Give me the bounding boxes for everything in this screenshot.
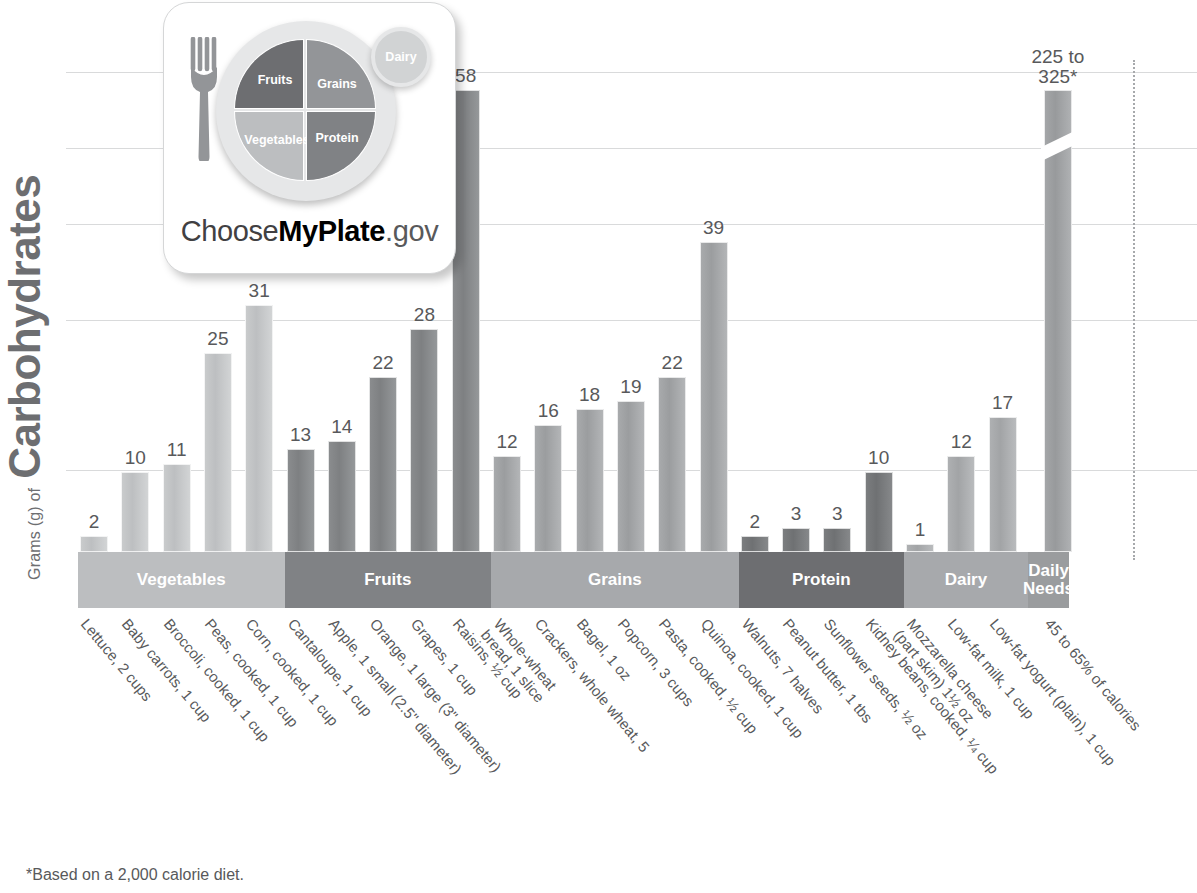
bar-value-label: 13 (290, 424, 311, 446)
bar-value-label: 12 (496, 431, 517, 453)
bar[interactable]: 17 (989, 417, 1017, 552)
logo-word-myplate: MyPlate (278, 215, 385, 247)
bar[interactable]: 18 (576, 409, 604, 552)
bar-value-label: 12 (951, 431, 972, 453)
chooseMyPlate-logo: Fruits Grains Vegetables Protein Dairy C… (163, 2, 456, 274)
bar-value-label: 58 (455, 65, 476, 87)
logo-word-choose: Choose (181, 215, 279, 247)
plate-label-dairy: Dairy (385, 50, 416, 64)
bar[interactable]: 10 (865, 472, 893, 552)
bar-value-label: 39 (703, 217, 724, 239)
x-axis-label: 45 to 65% of calories (1041, 616, 1144, 734)
bar-value-label: 2 (750, 511, 761, 533)
footnote: *Based on a 2,000 calorie diet. (26, 866, 244, 884)
group-band: Fruits (285, 552, 492, 608)
bar[interactable]: 39 (700, 242, 728, 552)
gridline (66, 320, 1197, 321)
bar[interactable]: 16 (534, 425, 562, 552)
group-band: Protein (739, 552, 904, 608)
bar[interactable]: 14 (328, 441, 356, 552)
group-band-label: Vegetables (137, 571, 226, 589)
bar-value-label: 10 (868, 447, 889, 469)
bar-value-line2: 325* (1031, 67, 1084, 86)
bar-value-label: 31 (249, 280, 270, 302)
group-band: Dairy (904, 552, 1028, 608)
bar[interactable]: 2 (741, 536, 769, 552)
bar-value-line1: 225 to (1031, 47, 1084, 66)
bar-value-label: 14 (331, 416, 352, 438)
group-band: Grains (491, 552, 739, 608)
bar-value-label: 1 (915, 519, 926, 541)
bar-value-label: 225 to325* (1031, 47, 1084, 86)
group-band-label: DailyNeeds (1023, 562, 1074, 598)
bar[interactable]: 25 (204, 353, 232, 552)
bar[interactable]: 19 (617, 401, 645, 552)
bar[interactable]: 22 (369, 377, 397, 552)
plate-label-grains: Grains (317, 77, 357, 91)
group-band-row: VegetablesFruitsGrainsProteinDairyDailyN… (78, 552, 1069, 608)
bar-value-label: 11 (167, 439, 187, 461)
plate-label-protein: Protein (315, 131, 358, 145)
logo-wordmark: ChooseMyPlate.gov (164, 215, 455, 248)
group-band-label: Protein (792, 571, 851, 589)
bar-value-label: 3 (791, 503, 802, 525)
bar-value-label: 19 (620, 376, 641, 398)
plate-label-vegetables: Vegetables (244, 133, 309, 147)
bar[interactable]: 12 (493, 456, 521, 552)
group-band-label: Dairy (945, 571, 988, 589)
bar-value-label: 22 (662, 352, 683, 374)
y-axis-title: Grams (g) of Carbohydrates (0, 0, 66, 600)
plate-label-fruits: Fruits (258, 73, 293, 87)
plate-section-dairy: Dairy (371, 27, 431, 87)
y-axis-unit-label: Grams (g) of (26, 488, 44, 580)
bar-value-label: 2 (89, 511, 100, 533)
group-band: DailyNeeds (1028, 552, 1069, 608)
bar[interactable]: 31 (245, 305, 273, 552)
axis-break-slash (1041, 131, 1075, 162)
bar-value-label: 25 (207, 328, 228, 350)
group-band: Vegetables (78, 552, 285, 608)
y-axis-main-label: Carbohydrates (0, 175, 50, 479)
bar-value-label: 17 (992, 392, 1013, 414)
daily-needs-separator (1133, 60, 1135, 560)
bar[interactable]: 3 (782, 528, 810, 552)
x-axis-labels: Lettuce, 2 cupsBaby carrots, 1 cupBrocco… (66, 608, 1197, 858)
bar-value-label: 28 (414, 304, 435, 326)
plate-graphic: Fruits Grains Vegetables Protein (216, 21, 396, 201)
bar-value-label: 16 (538, 400, 559, 422)
group-band-label: Fruits (364, 571, 411, 589)
bar[interactable]: 10 (121, 472, 149, 552)
bar-value-label: 18 (579, 384, 600, 406)
group-band-label: Grains (588, 571, 642, 589)
bar[interactable]: 28 (410, 329, 438, 552)
bar-value-label: 10 (125, 447, 146, 469)
bar[interactable]: 12 (947, 456, 975, 552)
bar[interactable]: 22 (658, 377, 686, 552)
bar-value-label: 3 (832, 503, 843, 525)
logo-word-gov: .gov (385, 215, 438, 247)
bar[interactable]: 1 (906, 544, 934, 552)
bar[interactable]: 3 (823, 528, 851, 552)
bar-value-label: 22 (373, 352, 394, 374)
bar[interactable]: 13 (287, 449, 315, 552)
bar[interactable]: 225 to325* (1044, 90, 1072, 552)
bar[interactable]: 2 (80, 536, 108, 552)
bar[interactable]: 11 (163, 464, 191, 552)
